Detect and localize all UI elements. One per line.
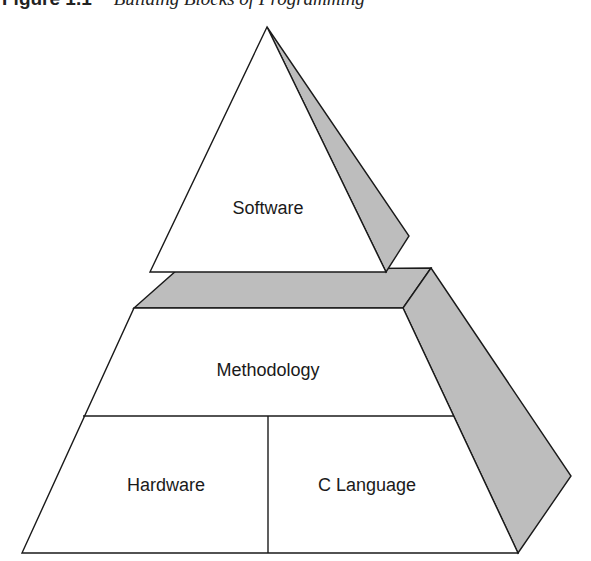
tier-label-hardware: Hardware [127,475,205,495]
tier-label-c-language: C Language [318,475,416,495]
pyramid-diagram: Software Methodology Hardware C Language [0,0,591,561]
lower-block-top-face [134,268,431,308]
tier-label-software: Software [232,198,303,218]
tier-label-methodology: Methodology [216,360,319,380]
